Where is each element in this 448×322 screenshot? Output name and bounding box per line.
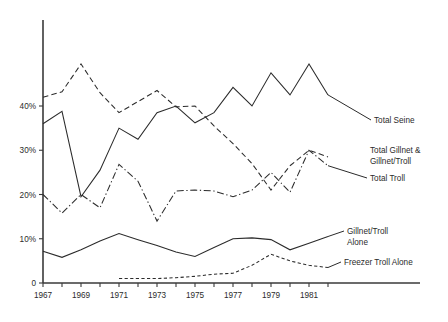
x-tick-label-1971: 1971 xyxy=(110,291,129,300)
label-freezer-troll-alone: Freezer Troll Alone xyxy=(344,258,413,267)
label-gillnet-troll-alone-line1: Gillnet/Troll xyxy=(347,227,388,236)
x-tick-label-1975: 1975 xyxy=(186,291,205,300)
series-total-troll xyxy=(43,150,328,221)
label-gillnet-troll-alone-line2: Alone xyxy=(347,238,368,247)
line-chart: 40%30%20%10%0 19671969197119731975197719… xyxy=(0,0,448,322)
label-total-gillnet-line1: Total Gillnet & xyxy=(370,146,421,155)
x-tick-label-1979: 1979 xyxy=(262,291,281,300)
x-tick-label-1967: 1967 xyxy=(34,291,53,300)
chart-canvas: 40%30%20%10%0 19671969197119731975197719… xyxy=(0,0,448,322)
series-total-seine xyxy=(43,64,328,197)
y-tick-label-0: 0 xyxy=(31,279,36,288)
label-total-gillnet-line2: Gillnet/Troll xyxy=(370,157,411,166)
series-labels: Total Seine Total Gillnet & Gillnet/Trol… xyxy=(328,95,421,268)
y-axis-tick-labels: 40%30%20%10%0 xyxy=(20,102,37,288)
x-tick-label-1969: 1969 xyxy=(72,291,91,300)
y-tick-label-30: 30% xyxy=(20,146,36,155)
x-tick-label-1981: 1981 xyxy=(300,291,319,300)
x-axis-tick-labels: 19671969197119731975197719791981 xyxy=(34,291,319,300)
series-freezer-troll-alone xyxy=(119,254,328,278)
leader-line-total-seine xyxy=(328,95,371,120)
label-total-troll: Total Troll xyxy=(370,174,405,183)
y-tick-label-40: 40% xyxy=(20,102,36,111)
y-tick-label-10: 10% xyxy=(20,235,36,244)
x-tick-label-1973: 1973 xyxy=(148,291,167,300)
series-total-gillnet-gillnet-troll xyxy=(43,64,328,190)
y-tick-label-20: 20% xyxy=(20,191,36,200)
leader-line-total-troll xyxy=(328,166,367,178)
series-group xyxy=(43,64,328,279)
series-gillnet-troll-alone xyxy=(43,233,328,257)
label-total-seine: Total Seine xyxy=(374,116,415,125)
leader-line-freezer-troll-alone xyxy=(328,262,341,268)
x-tick-label-1977: 1977 xyxy=(224,291,243,300)
leader-line-gillnet-troll-alone xyxy=(328,231,344,237)
